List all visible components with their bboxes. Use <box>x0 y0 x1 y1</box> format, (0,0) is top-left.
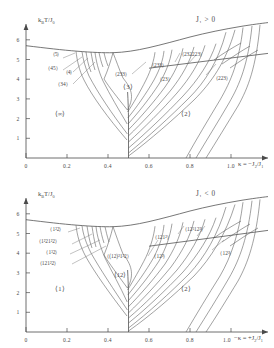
phase-label-233a-top: ⟨233⟩ <box>115 71 127 77</box>
phase-label-1-bottom: ⟨1⟩ <box>55 285 64 292</box>
phase-label-12cube-bottom: ⟨12³⟩ <box>220 250 231 256</box>
phase-label-1cube2-bottom: ⟨1³2⟩ <box>46 249 57 255</box>
phase-label-232223-top: ⟨232223⟩ <box>182 51 202 57</box>
ytick-top-5: 5 <box>16 57 19 63</box>
ytick-bottom-6: 6 <box>16 211 19 217</box>
condition-label-bottom: J₁ < 0 <box>196 190 216 198</box>
xtick-bottom-1.0: 1.0 <box>223 337 231 343</box>
ytick-top-3: 3 <box>16 96 19 102</box>
ytick-top-6: 6 <box>16 37 19 43</box>
phase-label-45-top: ⟨45⟩ <box>48 65 57 71</box>
panel-top: 1 2 3 4 5 6 0 0.2 0.4 0.6 0.8 1.0 kBT/J0… <box>0 0 274 174</box>
svg-text:−κ = +J2/J1: −κ = +J2/J1 <box>234 334 263 343</box>
ytick-top-2: 2 <box>16 116 19 122</box>
xtick-top-0.4: 0.4 <box>104 163 112 169</box>
xtick-top-0.2: 0.2 <box>63 163 71 169</box>
panel-top-svg: 1 2 3 4 5 6 0 0.2 0.4 0.6 0.8 1.0 kBT/J0… <box>0 0 274 174</box>
xtick-bottom-0.8: 0.8 <box>186 337 194 343</box>
ytick-bottom-1: 1 <box>16 309 19 315</box>
ytick-bottom-5: 5 <box>16 231 19 237</box>
xaxis-label-top: κ = −J2/J1 <box>238 160 263 169</box>
panel-bottom-svg: 1 2 3 4 5 6 0 0.2 0.4 0.6 0.8 1.0 kBT/J0… <box>0 174 274 348</box>
axes-top <box>24 24 268 160</box>
xtick-top-0.8: 0.8 <box>186 163 194 169</box>
ytick-top-1: 1 <box>16 135 19 141</box>
phase-label-2-bottom: ⟨2⟩ <box>181 285 190 292</box>
svg-text:κ = −J2/J1: κ = −J2/J1 <box>238 160 263 169</box>
ytick-top-4: 4 <box>16 76 19 82</box>
yaxis-label-top: kBT/J0 <box>38 16 55 25</box>
phase-label-34-top: ⟨34⟩ <box>58 81 67 87</box>
xtick-bottom-0.2: 0.2 <box>63 337 71 343</box>
phase-label-12-bottom: ⟨12⟩ <box>114 271 127 278</box>
xtick-bottom-0.6: 0.6 <box>145 337 153 343</box>
phase-boundaries-top <box>26 23 268 158</box>
phase-label-1sq2-bottom: ⟨1²2⟩ <box>50 226 61 232</box>
phase-boundaries-bottom <box>26 197 268 332</box>
phase-label-233b-top: ⟨233⟩ <box>152 62 164 68</box>
xtick-top-1.0: 1.0 <box>227 163 235 169</box>
phase-label-223-top: ⟨223⟩ <box>216 75 228 81</box>
ytick-bottom-3: 3 <box>16 270 19 276</box>
xtick-top-0.6: 0.6 <box>145 163 153 169</box>
xtick-bottom-0: 0 <box>24 337 27 343</box>
phase-label-23-top: ⟨23⟩ <box>160 76 169 82</box>
phase-label-5-top: ⟨5⟩ <box>53 51 60 57</box>
phase-label-12sq-bottom: ⟨12²⟩ <box>154 253 165 259</box>
phase-label-1sq21sq2-bottom: ⟨1²21²2⟩ <box>39 238 57 244</box>
phase-diagram-figure: 1 2 3 4 5 6 0 0.2 0.4 0.6 0.8 1.0 kBT/J0… <box>0 0 274 348</box>
phase-label-121sq-bottom: ⟨121²⟩ <box>155 234 169 240</box>
phase-label-4-top: ⟨4⟩ <box>66 69 73 75</box>
condition-label-top: J₁ > 0 <box>196 16 216 24</box>
svg-text:kBT/J0: kBT/J0 <box>38 190 55 199</box>
phase-label-3-top: ⟨3⟩ <box>123 83 132 90</box>
phase-label-infinity-top: ⟨∞⟩ <box>55 110 66 117</box>
xtick-top-0: 0 <box>24 163 27 169</box>
panel-bottom: 1 2 3 4 5 6 0 0.2 0.4 0.6 0.8 1.0 kBT/J0… <box>0 174 274 348</box>
phase-label-12sq1sq2-bottom: ⟨(12)²1²2⟩ <box>107 253 129 260</box>
ytick-bottom-2: 2 <box>16 290 19 296</box>
ytick-bottom-4: 4 <box>16 250 19 256</box>
phase-label-1211sq2-bottom: ⟨121²2⟩ <box>40 260 56 266</box>
xtick-bottom-0.4: 0.4 <box>104 337 112 343</box>
yaxis-label-bottom: kBT/J0 <box>38 190 55 199</box>
svg-text:kBT/J0: kBT/J0 <box>38 16 55 25</box>
xaxis-label-bottom: −κ = +J2/J1 <box>234 334 263 343</box>
phase-label-2-top: ⟨2⟩ <box>181 110 190 117</box>
phase-label-12cube12sq-bottom: ⟨12³12²⟩ <box>185 226 203 232</box>
